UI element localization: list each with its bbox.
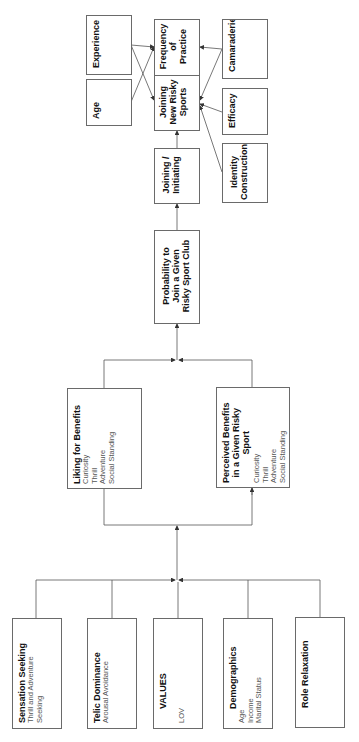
demographics-title: Demographics (228, 622, 238, 709)
frequency-of-practice-box: Frequency of Practice (154, 19, 200, 76)
identity-construction-box: Identity Construction (222, 143, 268, 203)
probability-line-3: Risky Sport Club (181, 231, 191, 321)
perceived-benefits-box: Perceived Benefits in a Given Risky Spor… (216, 387, 290, 488)
frequency-line-2: of (168, 20, 178, 73)
telic-dominance-box: Telic Dominance Arousal Avoidance (87, 618, 137, 729)
frequency-line-3: Practice (178, 20, 188, 73)
camaraderie-label: Camaraderie (227, 24, 237, 72)
joining-new-line-2: New Risky (168, 76, 178, 128)
perceived-title-line-2: in a Given Risky (231, 402, 241, 483)
values-box: VALUES LOV (153, 618, 203, 729)
values-title: VALUES (158, 622, 168, 709)
probability-box: Probability to Join a Given Risky Sport … (154, 230, 200, 324)
efficacy-box: Efficacy (222, 88, 268, 135)
sensation-item: Seeking (36, 622, 45, 723)
perceived-title-line-3: Sport (241, 402, 251, 483)
joining-initiating-box: Joining / Initiating (154, 148, 200, 204)
sensation-seeking-box: Sensation Seeking Thrill and Adventure S… (12, 618, 62, 729)
telic-item: Arousal Avoidance (102, 622, 111, 723)
joining-new-line-1: Joining (158, 76, 168, 128)
probability-line-1: Probability to (161, 231, 171, 321)
age-box: Age (86, 79, 132, 126)
role-relaxation-box: Role Relaxation (295, 617, 345, 728)
joining-new-risky-sports-box: Joining New Risky Sports (154, 75, 200, 131)
identity-line-1: Identity (229, 144, 239, 200)
liking-item: Social Standing (108, 391, 117, 484)
camaraderie-box: Camaraderie (222, 19, 268, 79)
frequency-line-1: Frequency (158, 20, 168, 73)
joining-initiating-line-2: Initiating (171, 149, 181, 201)
values-item: LOV (178, 622, 187, 723)
joining-initiating-line-1: Joining / (161, 149, 171, 201)
demographics-item: Marital Status (255, 622, 264, 723)
joining-new-line-3: Sports (178, 76, 188, 128)
efficacy-label: Efficacy (227, 93, 237, 128)
identity-line-2: Construction (239, 144, 249, 200)
experience-label: Experience (91, 20, 101, 68)
liking-for-benefits-box: Liking for Benefits Curiosity Thrill Adv… (67, 388, 142, 489)
perceived-title-line-1: Perceived Benefits (221, 402, 231, 483)
role-title: Role Relaxation (300, 621, 310, 708)
age-label: Age (91, 84, 101, 119)
probability-line-2: Join a Given (171, 231, 181, 321)
perceived-item: Social Standing (279, 390, 288, 483)
demographics-box: Demographics Age Income Marital Status (223, 618, 273, 729)
experience-box: Experience (86, 15, 132, 75)
